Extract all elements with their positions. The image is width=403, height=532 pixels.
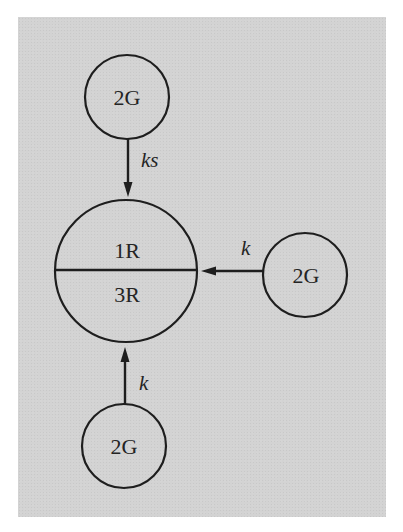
node-central-1r-3r: 1R 3R: [55, 200, 197, 342]
edge-top-label: ks: [141, 148, 159, 172]
node-bottom-label: 2G: [111, 434, 138, 459]
node-central-top-label: 1R: [114, 238, 140, 263]
edge-right-to-center: k: [201, 236, 263, 276]
node-right-label: 2G: [293, 263, 320, 288]
node-bottom-2g: 2G: [82, 404, 166, 488]
edge-bottom-to-center: k: [121, 347, 150, 404]
diagram-canvas: 2G ks 1R 3R 2G k 2G: [0, 0, 403, 532]
node-central-bottom-label: 3R: [114, 282, 140, 307]
arrowhead-up-icon: [121, 347, 130, 362]
node-right-2g: 2G: [263, 233, 347, 317]
reaction-diagram: 2G ks 1R 3R 2G k 2G: [0, 0, 403, 532]
edge-right-label: k: [241, 236, 251, 260]
arrowhead-down-icon: [124, 182, 133, 197]
edge-top-to-center: ks: [124, 139, 159, 197]
node-top-2g: 2G: [85, 55, 169, 139]
arrowhead-left-icon: [201, 267, 216, 276]
node-top-label: 2G: [114, 85, 141, 110]
edge-bottom-label: k: [139, 371, 149, 395]
